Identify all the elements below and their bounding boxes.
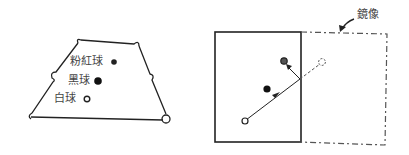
rebound-path <box>288 67 300 79</box>
diagram-canvas <box>0 0 409 155</box>
mirror-table <box>299 32 387 145</box>
white-ball-label: 白球 <box>54 93 76 105</box>
shot-path <box>246 79 300 120</box>
pink-ball <box>111 59 117 65</box>
white-ball <box>84 96 90 102</box>
black-ball <box>94 77 102 85</box>
white-ball-right <box>242 118 248 124</box>
pink-ball-right <box>281 58 287 64</box>
virtual-path <box>300 64 320 79</box>
table-right <box>215 32 301 142</box>
mirror-label: 鏡像 <box>357 9 379 21</box>
ghost-ball-mirror <box>319 59 326 66</box>
black-ball-right <box>263 85 270 92</box>
rebound-arrow-icon <box>286 64 292 70</box>
pink-ball-label: 粉紅球 <box>70 56 103 68</box>
black-ball-label: 黑球 <box>68 75 90 87</box>
